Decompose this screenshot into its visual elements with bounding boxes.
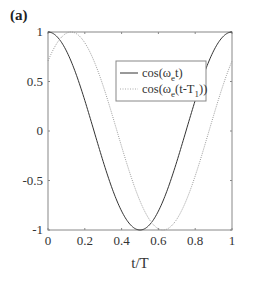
x-tick-label: 0.2 xyxy=(77,233,93,248)
x-tick-label: 0.8 xyxy=(187,233,203,248)
x-axis-label: t/T xyxy=(131,255,149,271)
axis-ticks: 00.20.40.60.8110.50-0.5-1 xyxy=(22,24,235,248)
y-tick-label: -1 xyxy=(32,222,43,237)
chart: 00.20.40.60.8110.50-0.5-1 t/T cos(ωet) c… xyxy=(0,0,269,283)
legend: cos(ωet) cos(ωe(t-T1)) xyxy=(116,61,207,101)
x-tick-label: 1 xyxy=(229,233,236,248)
x-tick-label: 0.4 xyxy=(113,233,130,248)
y-tick-label: -0.5 xyxy=(22,173,43,188)
x-tick-label: 0.6 xyxy=(150,233,167,248)
x-tick-label: 0 xyxy=(45,233,52,248)
y-tick-label: 1 xyxy=(37,24,44,39)
y-tick-label: 0.5 xyxy=(27,74,43,89)
y-tick-label: 0 xyxy=(37,123,44,138)
